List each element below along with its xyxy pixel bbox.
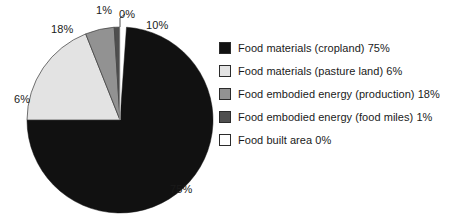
legend-swatch-built-area [219,134,231,146]
legend-label-production: Food embodied energy (production) 18% [238,88,440,100]
legend-swatch-pasture-land [219,65,231,77]
legend-item-pasture-land[interactable]: Food materials (pasture land) 6% [219,59,451,82]
legend-label-cropland: Food materials (cropland) 75% [238,42,390,54]
pie-label-cropland: 75% [170,183,192,195]
pie-chart-area: 1% 0% 10% 18% 6% 75% [0,0,215,219]
legend-swatch-production [219,88,231,100]
legend-item-production[interactable]: Food embodied energy (production) 18% [219,82,451,105]
pie-label-built-area: 0% [119,8,135,20]
legend-label-built-area: Food built area 0% [238,134,331,146]
chart-legend: Food materials (cropland) 75% Food mater… [219,36,451,151]
legend-swatch-cropland [219,42,231,54]
legend-item-built-area[interactable]: Food built area 0% [219,128,451,151]
pie-label-production: 18% [51,23,73,35]
legend-item-cropland[interactable]: Food materials (cropland) 75% [219,36,451,59]
legend-label-food-miles: Food embodied energy (food miles) 1% [238,111,432,123]
legend-item-food-miles[interactable]: Food embodied energy (food miles) 1% [219,105,451,128]
pie-label-pasture-land: 6% [14,93,30,105]
legend-label-pasture-land: Food materials (pasture land) 6% [238,65,402,77]
pie-label-extra: 10% [146,19,168,31]
legend-swatch-food-miles [219,111,231,123]
pie-label-food-miles: 1% [96,4,112,16]
pie-chart-screenshot: 1% 0% 10% 18% 6% 75% Food materials (cro… [0,0,451,219]
